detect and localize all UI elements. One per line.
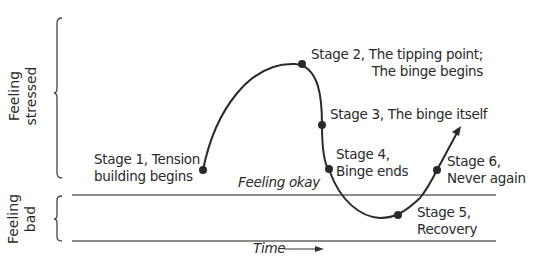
stage-6-label: Stage 6, Never again	[447, 153, 526, 187]
stage-2-line2: The binge begins	[311, 63, 483, 80]
stage-2-label: Stage 2, The tipping point; The binge be…	[311, 46, 483, 80]
time-arrow-head	[315, 246, 324, 252]
stage-6-line2: Never again	[447, 170, 526, 187]
feeling-stressed-label: Feeling stressed	[6, 61, 40, 131]
stage-5-line1: Stage 5,	[417, 204, 477, 221]
stressed-bracket	[54, 18, 62, 178]
stage-2-line1: Stage 2, The tipping point;	[311, 46, 483, 63]
stage-3-dot	[318, 121, 326, 129]
feeling-bad-line2: bad	[22, 189, 39, 249]
bad-bracket	[54, 196, 62, 241]
time-label: Time	[253, 240, 285, 257]
feeling-stressed-line2: stressed	[23, 61, 40, 131]
stage-5-dot	[394, 211, 402, 219]
feeling-stressed-line1: Feeling	[6, 61, 23, 131]
stage-6-line1: Stage 6,	[447, 153, 526, 170]
feeling-okay-label: Feeling okay	[238, 174, 320, 191]
stage-4-dot	[325, 165, 333, 173]
curve-arrow-head	[452, 126, 461, 136]
stage-1-dot	[199, 166, 207, 174]
stage-6-dot	[433, 166, 441, 174]
stage-1-line1: Stage 1, Tension	[94, 151, 200, 168]
stage-1-label: Stage 1, Tension building begins	[94, 151, 200, 185]
stage-5-line2: Recovery	[417, 221, 477, 238]
stage-4-label: Stage 4, Binge ends	[336, 146, 408, 180]
stage-4-line2: Binge ends	[336, 163, 408, 180]
stage-1-line2: building begins	[94, 168, 200, 185]
stage-3-line1: Stage 3, The binge itself	[330, 106, 487, 123]
feeling-bad-line1: Feeling	[5, 189, 22, 249]
stage-2-dot	[298, 60, 306, 68]
stage-3-label: Stage 3, The binge itself	[330, 106, 487, 123]
feeling-bad-label: Feeling bad	[5, 189, 39, 249]
stage-5-label: Stage 5, Recovery	[417, 204, 477, 238]
stage-4-line1: Stage 4,	[336, 146, 408, 163]
